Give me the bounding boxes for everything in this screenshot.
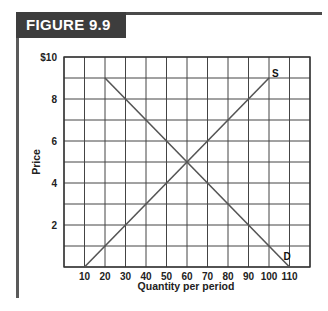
x-tick-label: 100 xyxy=(261,271,278,282)
x-tick-label: 30 xyxy=(120,271,132,282)
y-tick-label: 6 xyxy=(51,136,57,147)
y-tick-label: $10 xyxy=(40,52,57,63)
y-axis-title: Price xyxy=(30,149,42,175)
supply-curve xyxy=(85,78,270,267)
y-tick-label: 2 xyxy=(51,220,57,231)
x-tick-label: 20 xyxy=(99,271,111,282)
supply-demand-chart: SD 102030405060708090100110 2468$10 Quan… xyxy=(0,0,328,311)
demand-label: D xyxy=(284,251,291,262)
y-tick-label: 8 xyxy=(51,94,57,105)
y-axis-ticks: 2468$10 xyxy=(40,52,57,231)
y-tick-label: 4 xyxy=(51,178,57,189)
x-tick-label: 110 xyxy=(281,271,298,282)
x-tick-label: 90 xyxy=(243,271,255,282)
x-axis-title: Quantity per period xyxy=(138,280,235,292)
supply-label: S xyxy=(272,68,279,79)
demand-curve xyxy=(105,78,290,267)
chart-curves: SD xyxy=(85,68,291,267)
x-tick-label: 10 xyxy=(79,271,91,282)
